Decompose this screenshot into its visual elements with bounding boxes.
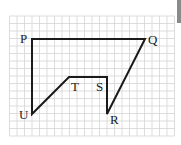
vertex-label-q: Q [148,32,158,47]
vertex-label-p: P [20,31,27,46]
vertex-label-t: T [71,79,79,94]
diagram-canvas: P Q R S T U [0,0,181,145]
polygon-pqrstu [32,39,145,114]
vertex-label-r: R [110,112,119,127]
vertex-label-u: U [19,107,29,122]
vertex-label-s: S [96,79,103,94]
page-edge-bar [177,0,181,23]
grid-diagram: P Q R S T U [0,0,181,145]
